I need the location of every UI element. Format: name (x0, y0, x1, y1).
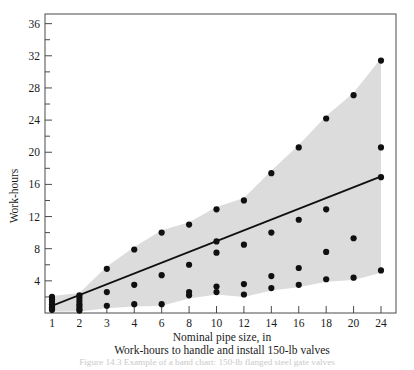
data-point (213, 238, 219, 244)
band-chart: 481216202428323612346810121416182024 Wor… (0, 0, 414, 370)
x-tick-label: 18 (320, 317, 332, 329)
data-point (186, 262, 192, 268)
x-tick-label: 2 (77, 317, 83, 329)
data-point (131, 246, 137, 252)
data-point (268, 230, 274, 236)
x-tick-label: 24 (375, 317, 387, 329)
data-point (104, 289, 110, 295)
data-point (268, 273, 274, 279)
x-tick-label: 12 (238, 317, 250, 329)
y-tick-label: 32 (29, 50, 41, 62)
data-point (378, 144, 384, 150)
data-point (186, 289, 192, 295)
data-point (131, 282, 137, 288)
data-point (186, 221, 192, 227)
y-tick-label: 12 (29, 211, 41, 223)
data-point (268, 285, 274, 291)
x-tick-label: 10 (211, 317, 223, 329)
x-tick-label: 4 (131, 317, 137, 329)
data-point (241, 291, 247, 297)
figure-caption: Figure 14.3 Example of a band chart: 150… (0, 357, 414, 368)
x-tick-label: 3 (104, 317, 110, 329)
x-tick-label: 14 (266, 317, 278, 329)
y-tick-label: 20 (29, 146, 41, 158)
data-point (350, 92, 356, 98)
y-tick-label: 16 (29, 178, 41, 190)
data-point (159, 301, 165, 307)
data-point (350, 275, 356, 281)
data-point (378, 267, 384, 273)
data-point (350, 235, 356, 241)
data-point (49, 307, 55, 313)
y-tick-label: 24 (29, 114, 41, 126)
y-tick-label: 8 (34, 243, 40, 255)
x-tick-label: 1 (49, 317, 55, 329)
data-point (213, 206, 219, 212)
x-axis-title: Nominal pipe size, in (173, 331, 272, 344)
y-tick-label: 4 (34, 275, 40, 287)
data-point (323, 276, 329, 282)
y-axis-title: Work-hours (8, 168, 20, 223)
data-point (378, 174, 384, 180)
data-point (49, 294, 55, 300)
data-point (378, 58, 384, 64)
data-point (131, 301, 137, 307)
data-point (213, 250, 219, 256)
data-point (241, 242, 247, 248)
data-point (213, 283, 219, 289)
data-point (76, 307, 82, 313)
chart-subcaption: Work-hours to handle and install 150-lb … (114, 344, 330, 356)
data-point (268, 170, 274, 176)
data-point (159, 272, 165, 278)
data-point (296, 282, 302, 288)
data-point (241, 281, 247, 287)
data-point (104, 303, 110, 309)
x-tick-label: 6 (159, 317, 165, 329)
y-tick-label: 28 (29, 82, 41, 94)
data-point (76, 292, 82, 298)
data-point (296, 217, 302, 223)
figure-container: 481216202428323612346810121416182024 Wor… (0, 0, 414, 370)
data-point (296, 144, 302, 150)
data-point (241, 197, 247, 203)
y-tick-label: 36 (29, 18, 41, 30)
x-tick-label: 20 (348, 317, 360, 329)
data-point (323, 249, 329, 255)
data-point (323, 115, 329, 121)
data-point (159, 230, 165, 236)
data-point (213, 289, 219, 295)
data-point (323, 206, 329, 212)
data-point (296, 265, 302, 271)
x-tick-label: 8 (186, 317, 192, 329)
x-tick-label: 16 (293, 317, 305, 329)
data-point (104, 266, 110, 272)
band-region (52, 58, 381, 311)
